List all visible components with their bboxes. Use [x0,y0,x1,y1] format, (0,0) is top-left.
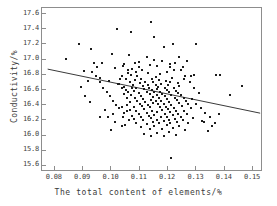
data-point [121,75,123,77]
data-point [149,64,151,66]
data-point [118,83,120,85]
data-point [135,122,137,124]
data-point [104,109,106,111]
scatter-chart-figure: Conductivity/% 15.615.816.016.216.416.61… [0,0,277,206]
data-point [195,103,197,105]
data-point [122,116,124,118]
data-point [169,81,171,83]
data-point [185,100,187,102]
data-point [78,43,80,45]
data-point [149,106,151,108]
data-point [180,69,182,71]
data-point [146,123,148,125]
data-point [156,119,158,121]
data-point [90,48,92,50]
data-point [161,109,163,111]
data-point [160,100,162,102]
data-point [123,112,125,114]
data-point [152,121,154,123]
data-point [148,87,150,89]
data-point [89,101,91,103]
data-point [153,36,155,38]
x-tick-label: 0.08 [39,174,69,181]
data-point [204,112,206,114]
data-point [152,81,154,83]
data-point [106,91,108,93]
data-point [114,121,116,123]
data-point [172,114,174,116]
data-point [156,94,158,96]
data-point [156,132,158,134]
data-point [180,94,182,96]
data-point [207,130,209,132]
y-tick-label: 17.2 [5,40,39,47]
data-point [178,85,180,87]
data-point [149,93,151,95]
data-point [109,95,111,97]
data-point [178,102,180,104]
data-point [134,79,136,81]
x-tick-label: 0.14 [209,174,239,181]
y-tick-label: 16.0 [5,131,39,138]
data-point [80,86,82,88]
data-point [96,66,98,68]
data-point [135,87,137,89]
data-point [183,78,185,80]
data-point [153,91,155,93]
data-point [112,113,114,115]
data-point [142,119,144,121]
data-point [138,92,140,94]
data-point [125,78,127,80]
data-point [102,87,104,89]
data-point [167,84,169,86]
data-point [177,82,179,84]
data-point [121,87,123,89]
data-point [170,157,172,159]
data-point [183,110,185,112]
data-point [130,74,132,76]
data-point [219,74,221,76]
data-point [182,119,184,121]
data-point [200,107,202,109]
data-point [128,54,130,56]
data-point [161,60,163,62]
y-tick-mark [42,150,46,151]
data-point [129,101,131,103]
data-point [108,80,110,82]
data-point [93,62,95,64]
data-point [214,122,216,124]
data-point [166,71,168,73]
data-point [169,122,171,124]
data-point [156,88,158,90]
data-point [187,122,189,124]
data-point [124,124,126,126]
data-point [195,43,197,45]
data-point [161,128,163,130]
data-point [172,127,174,129]
data-point [156,65,158,67]
data-point [151,110,153,112]
data-point [155,100,157,102]
y-tick-label: 17.6 [5,10,39,17]
y-tick-mark [42,43,46,44]
data-point [101,62,103,64]
data-point [146,91,148,93]
x-tick-label: 0.11 [124,174,154,181]
data-point [175,134,177,136]
data-point [151,78,153,80]
data-point [159,106,161,108]
y-tick-mark [42,59,46,60]
data-point [174,62,176,64]
data-point [183,97,185,99]
data-point [159,73,161,75]
data-point [177,113,179,115]
data-point [123,86,125,88]
data-point [166,98,168,100]
data-point [131,115,133,117]
data-point [138,113,140,115]
data-point [215,74,217,76]
x-tick-mark [167,166,168,170]
data-point [136,100,138,102]
y-tick-label: 16.8 [5,70,39,77]
data-point [190,107,192,109]
